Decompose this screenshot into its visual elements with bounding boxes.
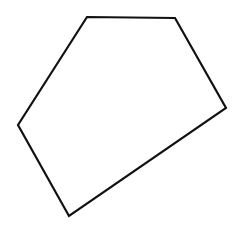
diagram-canvas <box>0 0 233 236</box>
pentagon-shape <box>18 17 226 216</box>
pentagon-diagram <box>0 0 233 236</box>
